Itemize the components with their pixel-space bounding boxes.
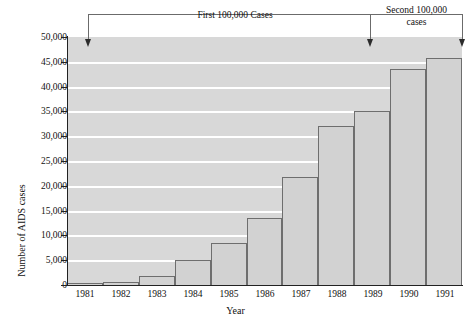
x-axis-line [67,285,463,286]
plot-area [67,37,462,285]
x-tick-label-1983: 1983 [137,289,177,300]
x-axis-title: Year [0,305,471,316]
y-tick-label-50000: 50,000 [9,32,67,42]
x-tick-label-1991: 1991 [425,289,465,300]
bar-1991[interactable] [426,58,462,285]
annotation-second-100000-label-line1: Second 100,000 [371,5,462,17]
bar-1987[interactable] [282,177,318,285]
bar-series [67,37,462,285]
y-tick-label-40000: 40,000 [9,82,67,92]
x-tick-label-1982: 1982 [101,289,141,300]
annotation-first-100000-label: First 100,000 Cases [160,10,310,22]
x-tick-label-1984: 1984 [173,289,213,300]
x-tick-label-1990: 1990 [389,289,429,300]
aids-cases-bar-chart: 50,000 45,000 40,000 35,000 30,000 25,00… [0,0,471,331]
bar-1986[interactable] [247,218,283,285]
bracket-vertical-left-first [88,14,89,40]
x-tick-label-1989: 1989 [353,289,393,300]
x-tick-label-1986: 1986 [245,289,285,300]
y-tick-label-45000: 45,000 [9,57,67,67]
y-tick-label-30000: 30,000 [9,131,67,141]
x-tick-label-1987: 1987 [281,289,321,300]
annotation-second-100000-label-line2: cases [371,17,462,29]
y-axis-title: Number of AIDS cases [16,156,27,306]
bar-1985[interactable] [211,243,247,285]
bar-1990[interactable] [390,69,426,285]
bar-1989[interactable] [354,111,390,285]
bar-1984[interactable] [175,260,211,285]
x-tick-label-1988: 1988 [317,289,357,300]
bar-1983[interactable] [139,276,175,285]
y-tick-label-35000: 35,000 [9,106,67,116]
arrow-down-1981-icon [85,39,91,47]
arrow-down-1989-icon [367,39,373,47]
x-tick-label-1985: 1985 [209,289,249,300]
bracket-vertical-right-second [462,14,463,40]
bar-1988[interactable] [318,126,354,285]
y-axis-title-wrapper: Number of AIDS cases [3,85,17,245]
y-axis-line [67,36,68,286]
arrow-down-1991-icon [459,39,465,47]
x-tick-label-1981: 1981 [65,289,105,300]
